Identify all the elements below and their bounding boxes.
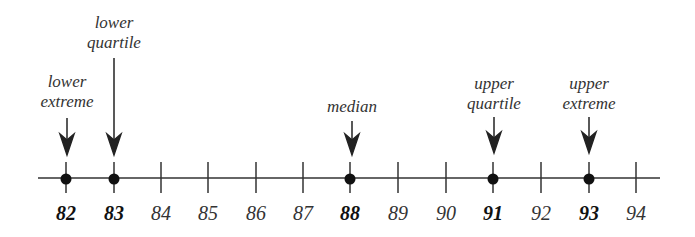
tick-label-83: 83	[104, 202, 124, 225]
label-lower-extreme: lower extreme	[40, 72, 93, 112]
tick-label-92: 92	[531, 202, 551, 225]
data-points	[61, 174, 595, 185]
tick-label-93: 93	[579, 202, 599, 225]
tick-label-86: 86	[246, 202, 266, 225]
tick-label-82: 82	[56, 202, 76, 225]
point-lower-extreme	[61, 174, 72, 185]
tick-label-84: 84	[151, 202, 171, 225]
tick-label-89: 89	[388, 202, 408, 225]
label-lower-quartile: lower quartile	[87, 13, 141, 53]
tick-label-85: 85	[198, 202, 218, 225]
label-upper-extreme: upper extreme	[562, 74, 615, 114]
point-lower-quartile	[109, 174, 120, 185]
tick-label-94: 94	[626, 202, 646, 225]
tick-label-87: 87	[293, 202, 313, 225]
label-upper-quartile: upper quartile	[467, 74, 521, 114]
tick-label-91: 91	[483, 202, 503, 225]
tick-label-90: 90	[436, 202, 456, 225]
tick-label-88: 88	[340, 202, 360, 225]
point-upper-extreme	[584, 174, 595, 185]
label-median: median	[327, 97, 377, 117]
point-upper-quartile	[488, 174, 499, 185]
point-median	[345, 174, 356, 185]
